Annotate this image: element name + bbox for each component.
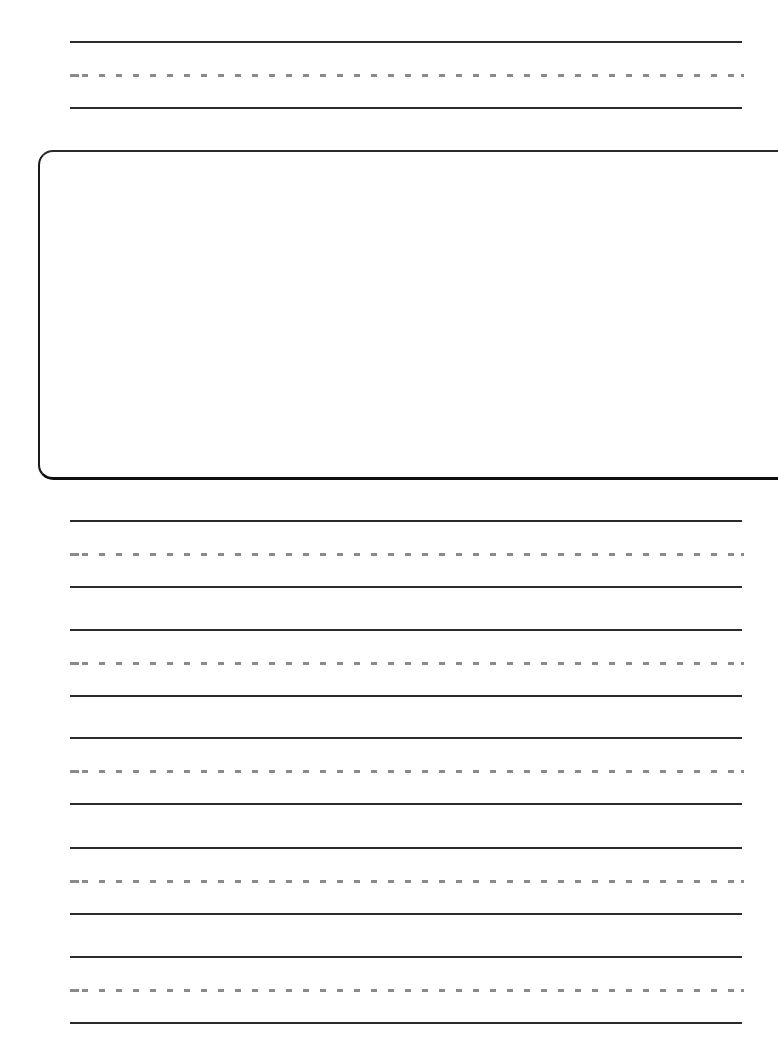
headline — [70, 956, 742, 958]
baseline — [70, 586, 742, 588]
midline-dashed — [70, 770, 742, 773]
writing-row-5[interactable] — [70, 956, 742, 1024]
baseline — [70, 913, 742, 915]
top-writing-row[interactable] — [70, 41, 742, 109]
headline — [70, 41, 742, 43]
baseline — [70, 695, 742, 697]
headline — [70, 847, 742, 849]
baseline — [70, 803, 742, 805]
headline — [70, 629, 742, 631]
drawing-box[interactable] — [38, 150, 778, 480]
writing-row-2[interactable] — [70, 629, 742, 697]
midline-dashed — [70, 553, 742, 556]
baseline — [70, 1022, 742, 1024]
headline — [70, 737, 742, 739]
writing-row-1[interactable] — [70, 520, 742, 588]
writing-row-3[interactable] — [70, 737, 742, 805]
midline-dashed — [70, 74, 742, 77]
writing-row-4[interactable] — [70, 847, 742, 915]
midline-dashed — [70, 662, 742, 665]
headline — [70, 520, 742, 522]
midline-dashed — [70, 989, 742, 992]
midline-dashed — [70, 880, 742, 883]
baseline — [70, 107, 742, 109]
